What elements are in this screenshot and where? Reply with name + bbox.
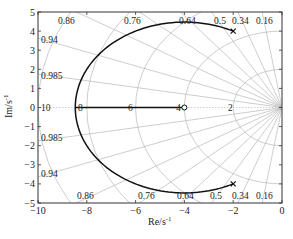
damping-label: 0.86 [77,191,94,201]
damping-label: 0.985 [41,133,63,143]
damping-label: 0.985 [41,71,63,81]
damping-label: 0.16 [256,16,273,26]
root-locus-chart: −10−8−6−4−20−5−4−3−2−1012345 0.860.760.6… [0,0,293,238]
y-tick-label: 4 [30,26,35,37]
damping-label: 0.76 [138,191,155,201]
damping-label: 0.94 [41,35,58,45]
y-tick-label: −5 [24,198,35,209]
y-tick-label: 3 [30,45,35,56]
wn-label: 2 [228,103,233,113]
y-tick-label: 5 [30,7,35,18]
wn-label: 10 [41,103,51,113]
wn-label: 6 [128,103,133,113]
y-axis-label: Im/s-1 [2,94,14,118]
x-tick-label: −8 [81,205,92,216]
damping-label: 0.86 [58,16,75,26]
damping-label: 0.76 [124,16,141,26]
y-tick-label: 1 [30,83,35,94]
y-tick-label: 0 [30,102,35,113]
damping-line [204,108,282,239]
x-tick-label: 0 [280,205,285,216]
y-tick-label: −4 [24,178,35,189]
damping-label: 0.64 [179,16,196,26]
wn-label: 4 [176,103,181,113]
zero-marker-o-icon [182,105,187,110]
damping-label: 0.16 [256,191,273,201]
x-tick-label: −4 [179,205,190,216]
y-tick-label: −1 [24,121,35,132]
x-axis-label: Re/s-1 [148,215,172,227]
axis-ticks: −10−8−6−4−20−5−4−3−2−1012345 [24,7,284,217]
damping-label: 0.34 [232,191,249,201]
wn-label: 8 [78,103,83,113]
x-tick-label: −6 [130,205,141,216]
y-tick-label: 2 [30,64,35,75]
damping-label: 0.64 [177,191,194,201]
damping-label: 0.5 [210,191,222,201]
damping-label: 0.5 [214,16,226,26]
y-tick-label: −3 [24,159,35,170]
x-tick-label: −2 [228,205,239,216]
damping-label: 0.94 [41,169,58,179]
y-tick-label: −2 [24,140,35,151]
damping-label: 0.34 [232,16,249,26]
